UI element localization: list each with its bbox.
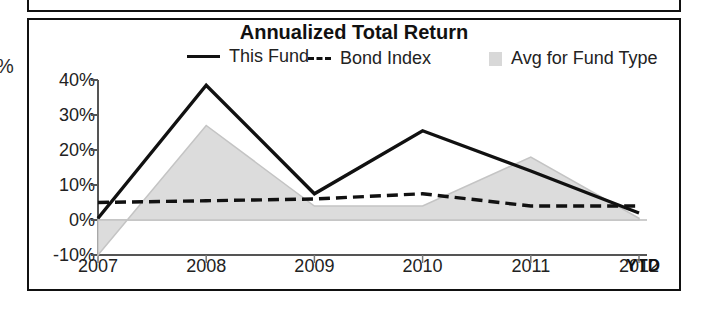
area-avg-for-fund-type bbox=[98, 126, 639, 256]
plot-area bbox=[29, 20, 683, 293]
cropped-top-panel bbox=[27, 0, 681, 12]
annualized-total-return-chart-panel: Annualized Total Return This Fund Bond I… bbox=[27, 18, 681, 291]
cropped-axis-unit-label: % bbox=[0, 55, 13, 78]
series-avg-for-fund-type bbox=[98, 126, 639, 256]
